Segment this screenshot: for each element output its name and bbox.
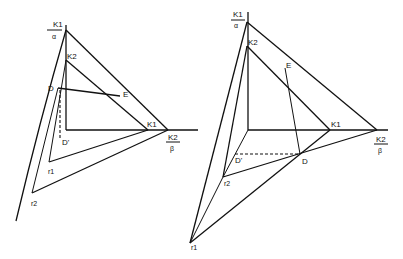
left-label-right-den: β [170, 145, 174, 153]
left-label-k1: K1 [147, 120, 157, 129]
left-label-right-num: K2 [168, 133, 178, 142]
left-label-d: D [48, 84, 54, 93]
left-label-r2: r2 [31, 200, 37, 207]
right-diagram: K1 α K2 E K1 K2 β D D' r2 r1 [190, 10, 388, 251]
right-edge-apex-k2beta [247, 22, 377, 130]
right-label-k2: K2 [248, 38, 258, 47]
right-edge-apex-r1 [190, 22, 247, 243]
right-label-right-num: K2 [376, 135, 386, 144]
left-label-e: E [123, 90, 128, 99]
right-label-r1: r1 [191, 244, 197, 251]
left-diagram: K1 α K2 D E K1 K2 β D' r1 r2 [16, 20, 198, 221]
right-label-top-den: α [234, 22, 238, 29]
right-label-right-den: β [378, 147, 382, 155]
right-edge-e-d [285, 68, 300, 154]
left-label-r1: r1 [48, 168, 54, 175]
right-edge-k1-r1 [190, 130, 330, 243]
right-label-r2: r2 [224, 180, 230, 187]
left-edge-apex-k2beta [66, 30, 168, 130]
left-outer-curve [16, 30, 66, 221]
left-label-top-den: α [52, 33, 56, 40]
right-edge-r2-r1 [190, 177, 223, 243]
right-label-dprime: D' [235, 156, 243, 165]
left-edge-d-e [58, 88, 120, 96]
diagram-canvas: K1 α K2 D E K1 K2 β D' r1 r2 [0, 0, 403, 259]
right-label-d: D [302, 157, 308, 166]
right-label-k1: K1 [331, 120, 341, 129]
right-label-e: E [286, 61, 291, 70]
left-label-dprime: D' [62, 138, 70, 147]
left-label-k2: K2 [67, 52, 77, 61]
right-label-top-num: K1 [233, 10, 243, 19]
left-label-top-num: K1 [53, 20, 63, 29]
